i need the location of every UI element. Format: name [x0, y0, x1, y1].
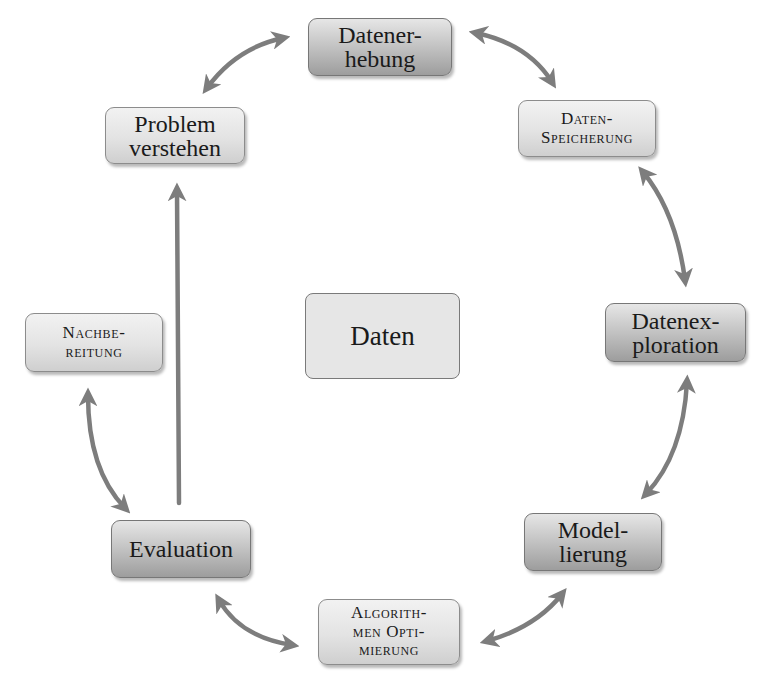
arrow-evaluation-problem: [177, 190, 179, 503]
node-label: Datener- hebung: [338, 23, 421, 71]
node-center-daten: Daten: [305, 293, 460, 379]
node-modellierung: Model- lierung: [524, 513, 662, 571]
node-label: Evaluation: [129, 537, 233, 561]
node-algorithmen-optimierung: Algorith- men Opti- mierung: [318, 599, 460, 665]
node-nachbereitung: Nachbe- reitung: [25, 313, 163, 372]
node-label: Problem verstehen: [129, 112, 221, 160]
arrow-speicherung-exploration: [643, 172, 685, 280]
node-label: Nachbe- reitung: [63, 324, 126, 361]
arrow-datenerhebung-speicherung: [476, 33, 552, 82]
node-label: Model- lierung: [558, 518, 629, 566]
node-datenexploration: Datenex- ploration: [605, 303, 746, 362]
center-label: Daten: [350, 323, 414, 350]
arrow-evaluation-nachbereitung: [88, 395, 125, 508]
arrow-problem-datenerhebung: [207, 38, 283, 88]
arrow-exploration-modellierung: [646, 382, 687, 494]
node-datenerhebung: Datener- hebung: [308, 18, 452, 76]
arrow-modellierung-algorithmen: [487, 594, 562, 641]
node-label: Daten- Speicherung: [541, 110, 633, 147]
arrow-algorithmen-evaluation: [219, 600, 292, 645]
node-label: Datenex- ploration: [632, 309, 720, 357]
node-label: Algorith- men Opti- mierung: [351, 604, 427, 660]
node-problem-verstehen: Problem verstehen: [105, 107, 245, 164]
node-datenspeicherung: Daten- Speicherung: [518, 100, 656, 157]
node-evaluation: Evaluation: [111, 520, 251, 578]
